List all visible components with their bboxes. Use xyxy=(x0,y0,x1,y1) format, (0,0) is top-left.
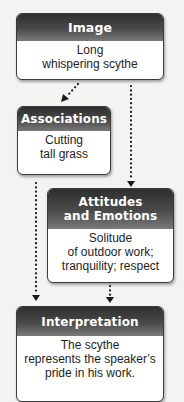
node-associations-title: Associations xyxy=(18,107,110,131)
node-title-line: Attitudes xyxy=(79,195,143,209)
node-title-line: Interpretation xyxy=(41,315,138,329)
node-attitudes-title: Attitudes and Emotions xyxy=(48,189,173,229)
node-interpretation-title: Interpretation xyxy=(17,307,163,336)
arrowhead-icon xyxy=(106,297,114,303)
node-associations: Associations Cutting tall grass xyxy=(17,106,111,175)
node-image: Image Long whispering scythe xyxy=(16,13,164,80)
node-body-line: Long xyxy=(17,43,163,57)
node-body-line: whispering scythe xyxy=(17,57,163,71)
node-body-line: of outdoor work; xyxy=(48,245,173,259)
node-image-title: Image xyxy=(17,14,163,41)
node-body-line: pride in his work. xyxy=(17,366,163,380)
node-image-body: Long whispering scythe xyxy=(17,41,163,71)
node-interpretation: Interpretation The scythe represents the… xyxy=(16,306,164,402)
node-body-line: tranquility; respect xyxy=(48,259,173,273)
node-body-line: The scythe xyxy=(17,338,163,352)
node-attitudes-and-emotions: Attitudes and Emotions Solitude of outdo… xyxy=(47,188,174,283)
node-body-line: Cutting xyxy=(18,133,110,147)
node-title-line: Image xyxy=(68,21,112,35)
node-title-line: and Emotions xyxy=(64,209,157,223)
node-body-line: Solitude xyxy=(48,231,173,245)
arrowhead-icon xyxy=(61,94,69,102)
node-attitudes-body: Solitude of outdoor work; tranquility; r… xyxy=(48,229,173,273)
arrowhead-icon xyxy=(127,181,135,187)
node-title-line: Associations xyxy=(21,112,107,126)
node-body-line: represents the speaker’s xyxy=(17,352,163,366)
arrowhead-icon xyxy=(32,295,40,301)
node-body-line: tall grass xyxy=(18,147,110,161)
node-associations-body: Cutting tall grass xyxy=(18,131,110,161)
node-interpretation-body: The scythe represents the speaker’s prid… xyxy=(17,336,163,380)
arrow-image-to-associations xyxy=(68,84,78,95)
